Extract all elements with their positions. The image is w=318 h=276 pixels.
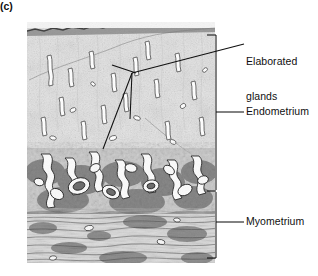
label-myometrium: Myometrium [246, 216, 304, 228]
panel-letter: (c) [0, 0, 318, 12]
figure-root: Elaborated glands Endometrium Myometrium… [0, 0, 318, 276]
label-elaborated-glands-line1: Elaborated [246, 56, 297, 68]
label-elaborated-glands-line2: glands [246, 91, 297, 103]
histology-micrograph [27, 22, 215, 263]
label-endometrium: Endometrium [246, 106, 309, 118]
